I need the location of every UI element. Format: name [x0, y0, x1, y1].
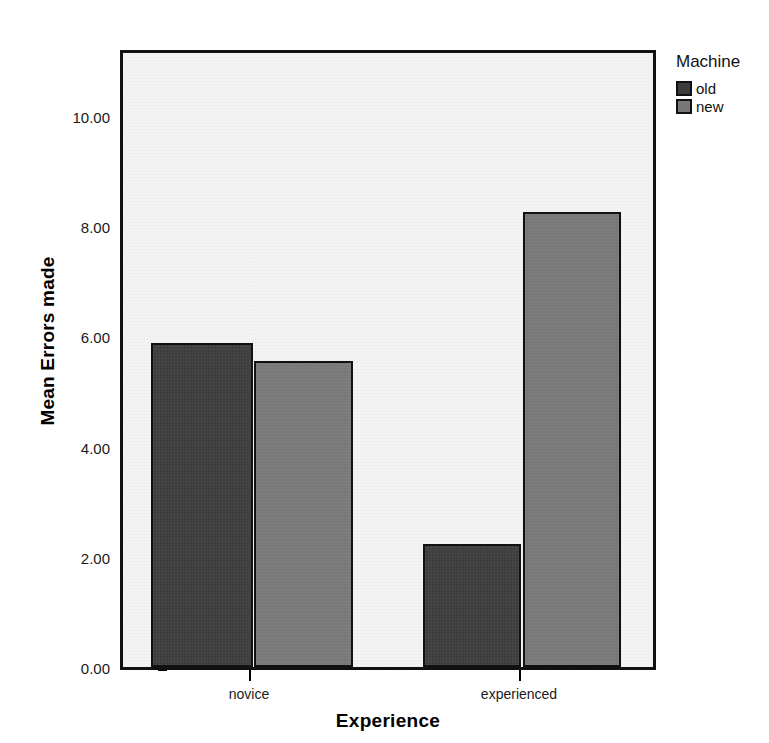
x-axis-tick-mark [249, 670, 251, 681]
legend-swatch-icon [676, 81, 692, 96]
y-axis-tick-label: 10.00 [54, 110, 110, 125]
legend-item-new[interactable]: new [676, 99, 769, 114]
bars-layer [123, 53, 653, 667]
bar-novice-old [151, 343, 253, 667]
plot-area [120, 50, 656, 670]
legend-items: oldnew [676, 81, 769, 114]
y-axis-tick-label: 8.00 [54, 220, 110, 235]
legend-item-label: new [696, 99, 724, 114]
y-axis-tick-label: 2.00 [54, 551, 110, 566]
y-axis-tick-label: 4.00 [54, 441, 110, 456]
y-axis-tick-label: 6.00 [54, 330, 110, 345]
bar-experienced-old [423, 544, 521, 667]
legend-swatch-icon [676, 99, 692, 114]
x-axis-title: Experience [120, 710, 656, 732]
bar-chart: Mean Errors made 0.002.004.006.008.0010.… [0, 0, 769, 743]
y-axis-tick-label: 0.00 [54, 661, 110, 676]
x-axis-tick-label: novice [149, 686, 349, 702]
legend-title: Machine [676, 52, 769, 72]
legend: Machine oldnew [676, 52, 769, 117]
bar-novice-new [254, 361, 353, 667]
x-axis-tick-label: experienced [419, 686, 619, 702]
x-axis-tick-mark [519, 670, 521, 681]
y-axis-ticks: 0.002.004.006.008.0010.00 [48, 0, 110, 743]
legend-item-label: old [696, 81, 716, 96]
bar-experienced-new [523, 212, 621, 667]
legend-item-old[interactable]: old [676, 81, 769, 96]
